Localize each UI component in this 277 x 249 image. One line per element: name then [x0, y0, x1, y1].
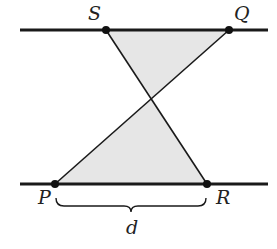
- point-Q: [225, 26, 233, 34]
- label-S: S: [88, 2, 101, 24]
- shaded-triangle-top: [106, 30, 229, 98]
- point-P: [51, 180, 59, 188]
- point-R: [203, 180, 211, 188]
- shaded-triangle-bottom: [55, 98, 207, 184]
- geometry-diagram: S Q P R d: [0, 0, 277, 249]
- distance-brace: [56, 198, 206, 212]
- label-d: d: [126, 216, 138, 238]
- label-P: P: [37, 186, 52, 208]
- label-Q: Q: [234, 2, 250, 24]
- label-R: R: [215, 186, 230, 208]
- point-S: [102, 26, 110, 34]
